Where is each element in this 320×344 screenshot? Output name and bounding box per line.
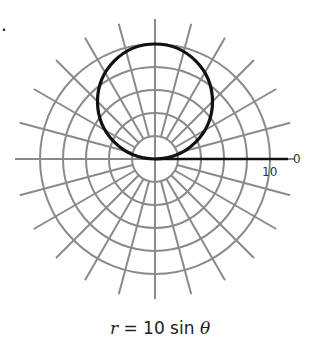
equation-r: r [110,318,118,338]
grid-spoke [119,24,149,137]
radius-ten-label: 10 [262,165,277,179]
grid-spoke [177,123,290,153]
equation-caption: r = 10 sin θ [0,318,320,338]
grid-spoke [119,181,149,294]
equation-equals: = [118,318,143,338]
polar-graph: 0 10 [0,0,320,344]
equation-theta: θ [200,318,210,338]
grid-spoke [161,24,191,137]
grid-spoke [161,181,191,294]
angle-zero-label: 0 [293,152,301,166]
grid-spoke [20,123,133,153]
equation-rhs: 10 sin [143,318,200,338]
grid-spoke [20,165,133,195]
